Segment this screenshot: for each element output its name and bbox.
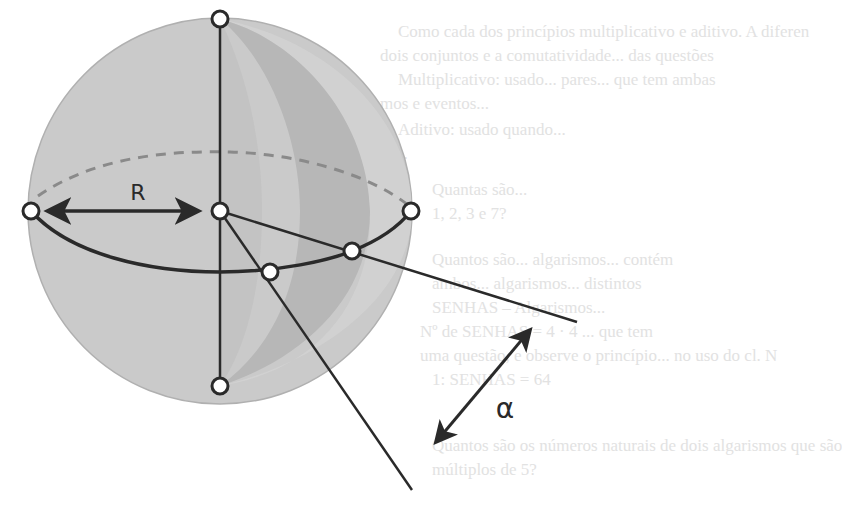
radius-label: R	[130, 180, 145, 205]
wedge-edge-node-2	[344, 243, 360, 259]
equator-left-node	[23, 203, 39, 219]
wedge-edge-node-1	[262, 264, 278, 280]
north-pole-node	[212, 11, 228, 27]
center-node	[212, 203, 228, 219]
equator-right-node	[403, 203, 419, 219]
south-pole-node	[212, 378, 228, 394]
angle-arrow	[436, 330, 530, 442]
angle-label: α	[496, 392, 514, 425]
